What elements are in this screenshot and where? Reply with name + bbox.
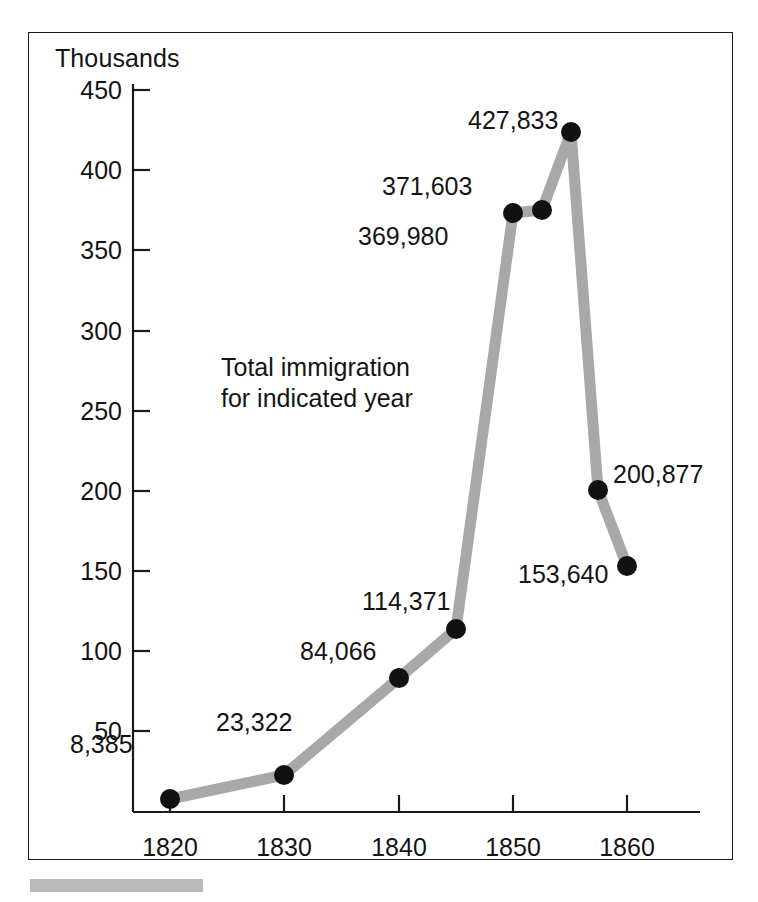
data-point-1857 bbox=[588, 480, 608, 500]
x-tick-label-1850: 1850 bbox=[463, 833, 563, 862]
data-label-1840: 84,066 bbox=[300, 637, 376, 666]
data-point-1820 bbox=[160, 789, 180, 809]
x-tick-label-1820: 1820 bbox=[120, 833, 220, 862]
chart-annotation-line-2: for indicated year bbox=[221, 383, 413, 414]
data-point-1852 bbox=[532, 200, 552, 220]
data-point-1840 bbox=[389, 668, 409, 688]
y-tick-label-100: 100 bbox=[46, 637, 122, 666]
caption-placeholder-bar bbox=[30, 879, 203, 892]
y-tick-label-200: 200 bbox=[46, 477, 122, 506]
y-axis-ticks bbox=[133, 90, 150, 731]
x-axis-ticks bbox=[170, 795, 627, 812]
data-point-1860 bbox=[617, 556, 637, 576]
y-tick-label-300: 300 bbox=[46, 317, 122, 346]
data-label-1852: 371,603 bbox=[382, 172, 472, 201]
data-label-1850: 369,980 bbox=[358, 222, 448, 251]
y-tick-label-400: 400 bbox=[46, 156, 122, 185]
chart-annotation-line-1: Total immigration bbox=[221, 352, 413, 383]
data-label-1845: 114,371 bbox=[362, 587, 451, 616]
data-label-1820: 8,385 bbox=[70, 730, 133, 759]
figure-container: Thousands 450 400 350 300 250 200 150 10… bbox=[0, 0, 758, 902]
chart-annotation: Total immigration for indicated year bbox=[221, 352, 413, 415]
data-point-1845 bbox=[446, 619, 466, 639]
x-tick-label-1840: 1840 bbox=[349, 833, 449, 862]
y-tick-label-250: 250 bbox=[46, 397, 122, 426]
chart-plot-area bbox=[0, 0, 758, 902]
data-point-1830 bbox=[274, 765, 294, 785]
y-tick-label-450: 450 bbox=[46, 76, 122, 105]
data-label-1860: 153,640 bbox=[518, 560, 608, 589]
x-tick-label-1860: 1860 bbox=[577, 833, 677, 862]
y-tick-label-350: 350 bbox=[46, 236, 122, 265]
data-label-1857: 200,877 bbox=[613, 460, 703, 489]
data-label-1855: 427,833 bbox=[468, 106, 558, 135]
data-point-1855 bbox=[561, 122, 581, 142]
data-point-1850 bbox=[503, 203, 523, 223]
data-label-1830: 23,322 bbox=[216, 708, 292, 737]
x-tick-label-1830: 1830 bbox=[234, 833, 334, 862]
y-axis-title: Thousands bbox=[55, 44, 180, 73]
y-tick-label-150: 150 bbox=[46, 557, 122, 586]
